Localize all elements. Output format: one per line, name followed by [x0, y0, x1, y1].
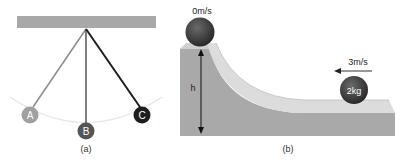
- string-c: [86, 29, 142, 110]
- ball-b-label: B: [83, 126, 90, 137]
- ball-c-label: C: [138, 110, 145, 121]
- velocity-arrow-head: [334, 68, 341, 74]
- figure-b-ramp: h 0m/s 2kg 3m/s (b): [180, 6, 395, 154]
- moving-ball-mass: 2kg: [347, 86, 362, 96]
- figure-a-pendulum: A B C (a): [10, 16, 162, 154]
- ball-a-label: A: [27, 110, 34, 121]
- caption-b: (b): [283, 144, 294, 154]
- ceiling-bar: [17, 16, 156, 28]
- moving-ball-velocity: 3m/s: [348, 57, 368, 67]
- top-ball-velocity: 0m/s: [192, 6, 212, 16]
- top-ball: [186, 18, 215, 47]
- caption-a: (a): [81, 144, 92, 154]
- physics-diagram: A B C (a) h 0m/s 2kg 3m/s (b): [0, 0, 408, 164]
- string-a: [33, 29, 86, 107]
- height-label: h: [190, 83, 195, 93]
